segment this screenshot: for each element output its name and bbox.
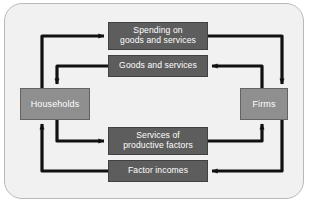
sector-label-households: Households [28, 99, 83, 109]
flow-label-factor-incomes: Factor incomes [125, 166, 191, 176]
arrow-firms-to-goods [212, 66, 262, 88]
diagram-canvas: Households Firms Spending on goods and s… [0, 0, 316, 200]
flow-label-services-line2: productive factors [120, 141, 196, 151]
flow-label-spending-line2: goods and services [117, 36, 199, 46]
sector-box-firms[interactable]: Firms [240, 88, 288, 120]
flow-label-services: Services of productive factors [117, 131, 199, 150]
arrow-factor-incomes-to-households [42, 124, 108, 171]
flow-label-goods-and-services: Goods and services [116, 61, 200, 71]
sector-label-firms: Firms [250, 99, 279, 109]
flow-box-spending[interactable]: Spending on goods and services [108, 22, 208, 50]
flow-box-services-of-productive-factors[interactable]: Services of productive factors [108, 127, 208, 155]
arrow-services-to-firms [208, 124, 262, 141]
arrow-goods-to-households [57, 66, 108, 84]
arrow-spending-to-firms [208, 36, 282, 84]
flow-box-goods-and-services[interactable]: Goods and services [108, 55, 208, 77]
arrow-households-to-services [57, 120, 104, 141]
sector-box-households[interactable]: Households [20, 88, 90, 120]
flow-box-factor-incomes[interactable]: Factor incomes [108, 160, 208, 182]
arrow-households-to-spending [42, 36, 104, 88]
flow-label-spending: Spending on goods and services [114, 26, 202, 45]
arrow-firms-to-factor-incomes [212, 120, 282, 171]
